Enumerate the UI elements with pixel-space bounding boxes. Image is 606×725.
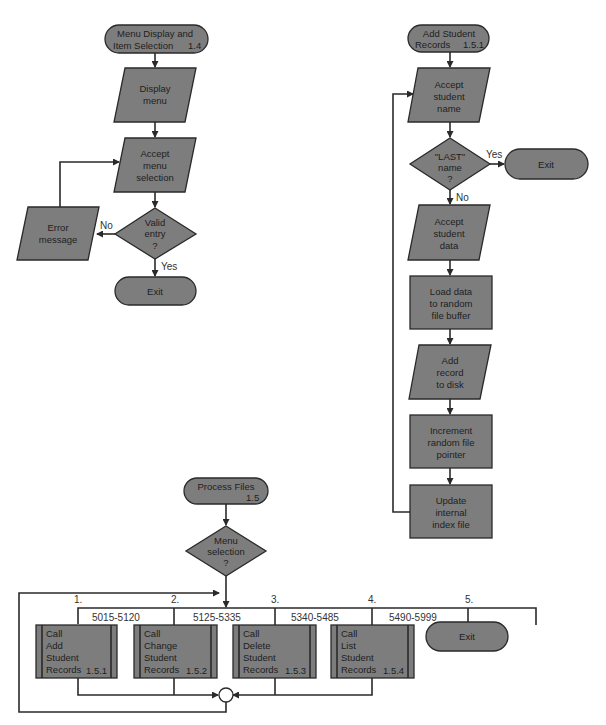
branch-label-yes: Yes <box>486 149 502 160</box>
subroutine-label: Call <box>144 628 160 639</box>
subroutine-change-student: Call Change Student Records 1.5.2 <box>134 625 217 678</box>
terminal-label: Exit <box>538 159 554 170</box>
branch-label-no: No <box>456 192 469 203</box>
subroutine-list-student: Call List Student Records 1.5.4 <box>331 625 414 678</box>
io-label: message <box>39 234 78 245</box>
decision-label: name <box>438 162 462 173</box>
subroutine-label: Records <box>341 664 377 675</box>
decision-label: ? <box>223 557 228 568</box>
decision-label: Menu <box>214 535 238 546</box>
branch-number: 5. <box>465 594 473 605</box>
process-id: 1.4 <box>188 40 201 51</box>
io-label: data <box>440 240 459 251</box>
io-label: name <box>437 103 461 114</box>
subroutine-label: List <box>341 640 356 651</box>
flowchart-canvas: Menu Display and Item Selection 1.4 Disp… <box>0 0 606 725</box>
branch-label-yes: Yes <box>161 261 177 272</box>
subroutine-label: Change <box>144 640 177 651</box>
io-label: Accept <box>434 216 463 227</box>
subroutine-label: Records <box>144 664 180 675</box>
subroutine-label: Records <box>46 664 82 675</box>
process-id: 1.5.2 <box>186 665 207 676</box>
line-range: 5125-5335 <box>193 612 241 623</box>
decision-label: ? <box>447 173 452 184</box>
process-label: index file <box>432 519 470 530</box>
terminal-label: Process Files <box>197 481 254 492</box>
io-label: to disk <box>436 379 464 390</box>
terminal-label: Add Student <box>423 28 476 39</box>
process-label: to random <box>430 298 473 309</box>
subroutine-label: Call <box>341 628 357 639</box>
process-label: Load data <box>430 286 473 297</box>
process-id: 1.5.3 <box>285 665 306 676</box>
subroutine-label: Delete <box>243 640 270 651</box>
process-label: file buffer <box>432 310 471 321</box>
subroutine-add-student: Call Add Student Records 1.5.1 <box>36 625 117 678</box>
add-student-flowchart: Add Student Records 1.5.1 Accept student… <box>393 25 588 538</box>
process-label: random file <box>428 437 475 448</box>
decision-label: Valid <box>145 217 165 228</box>
menu-display-flowchart: Menu Display and Item Selection 1.4 Disp… <box>17 25 208 305</box>
process-label: Increment <box>430 425 473 436</box>
io-label: selection <box>136 172 174 183</box>
subroutine-label: Student <box>341 652 374 663</box>
io-label: menu <box>143 160 167 171</box>
branch-number: 3. <box>271 594 279 605</box>
process-id: 1.5.1 <box>463 39 484 50</box>
connector-circle <box>219 688 233 702</box>
io-label: Accept <box>140 148 169 159</box>
decision-label: "LAST" <box>435 151 466 162</box>
terminal-label: Item Selection <box>113 40 173 51</box>
branch-number: 1. <box>74 594 82 605</box>
decision-label: selection <box>207 546 245 557</box>
subroutine-label: Student <box>46 652 79 663</box>
io-label: Error <box>47 222 68 233</box>
io-label: student <box>433 91 465 102</box>
terminal-label: Exit <box>147 286 163 297</box>
branch-number: 2. <box>171 594 179 605</box>
branch-label-no: No <box>100 220 113 231</box>
subroutine-label: Student <box>144 652 177 663</box>
process-label: internal <box>435 507 466 518</box>
subroutine-label: Records <box>243 664 279 675</box>
line-range: 5340-5485 <box>291 612 339 623</box>
terminal-label: Records <box>415 39 451 50</box>
terminal-label: Menu Display and <box>117 28 193 39</box>
line-range: 5015-5120 <box>92 612 140 623</box>
io-label: record <box>437 367 464 378</box>
decision-label: ? <box>152 240 157 251</box>
process-label: pointer <box>436 449 465 460</box>
process-id: 1.5 <box>246 492 259 503</box>
process-id: 1.5.4 <box>383 665 404 676</box>
io-label: Add <box>442 355 459 366</box>
process-id: 1.5.1 <box>86 665 107 676</box>
merge-line-left <box>78 678 218 695</box>
decision-label: entry <box>144 228 165 239</box>
branch-number: 4. <box>368 594 376 605</box>
io-label: Display <box>139 83 170 94</box>
subroutine-label: Call <box>46 628 62 639</box>
line-range: 5490-5999 <box>389 612 437 623</box>
io-label: Accept <box>434 79 463 90</box>
subroutine-label: Call <box>243 628 259 639</box>
io-label: student <box>433 228 465 239</box>
process-label: Update <box>436 495 467 506</box>
merge-line-right <box>233 678 372 695</box>
subroutine-label: Add <box>46 640 63 651</box>
subroutine-label: Student <box>243 652 276 663</box>
terminal-label: Exit <box>459 631 475 642</box>
arrow-loop-back <box>60 162 119 207</box>
io-label: menu <box>143 95 167 106</box>
subroutine-delete-student: Call Delete Student Records 1.5.3 <box>233 625 316 678</box>
